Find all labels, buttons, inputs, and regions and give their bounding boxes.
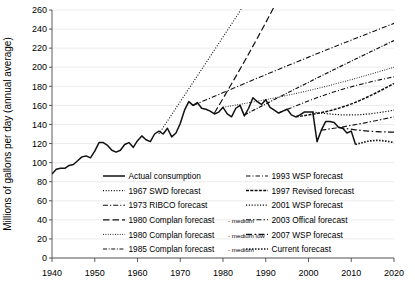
y-tick-label: 20 xyxy=(37,234,47,244)
legend-item[interactable]: 1993 WSP forecast xyxy=(246,171,344,181)
y-tick-label: 220 xyxy=(32,43,47,53)
series-group xyxy=(52,0,394,174)
y-axis-title: Millions of gallons per day (annual aver… xyxy=(2,37,13,230)
x-tick-label: 1990 xyxy=(256,268,276,278)
y-tick-label: 240 xyxy=(32,24,47,34)
y-tick-label: 100 xyxy=(32,158,47,168)
series-line-2001-wsp-forecast xyxy=(313,110,394,115)
x-tick-label: 2020 xyxy=(384,268,404,278)
legend-label: 1980 Complan forecast xyxy=(129,230,215,240)
legend-label: 2003 Offical forecast xyxy=(272,215,349,225)
x-tick-label: 1940 xyxy=(42,268,62,278)
legend-label: 1973 RIBCO forecast xyxy=(129,200,209,210)
y-tick-label: 140 xyxy=(32,120,47,130)
legend-label: 2001 WSP forecast xyxy=(272,200,344,210)
x-tick-label: 1980 xyxy=(213,268,233,278)
series-line-1973-ribco-forecast xyxy=(193,23,394,105)
legend-item[interactable]: 1973 RIBCO forecast xyxy=(103,200,208,210)
y-tick-label: 60 xyxy=(37,196,47,206)
series-line-1985-complan-forecast-medium xyxy=(244,41,394,115)
y-tick-label: 200 xyxy=(32,62,47,72)
legend-label: Actual consumption xyxy=(129,171,202,181)
legend-item[interactable]: 2001 WSP forecast xyxy=(246,200,344,210)
legend-label: 1985 Complan forecast xyxy=(129,244,215,254)
legend-label: 1967 SWD forecast xyxy=(129,186,202,196)
series-line-1993-wsp-forecast xyxy=(279,77,394,113)
legend-label: 1993 WSP forecast xyxy=(272,171,344,181)
x-tick-label: 1970 xyxy=(170,268,190,278)
x-tick-label: 1960 xyxy=(127,268,147,278)
legend-item[interactable]: 2003 Offical forecast xyxy=(246,215,348,225)
y-tick-label: 120 xyxy=(32,139,47,149)
x-tick-label: 1950 xyxy=(85,268,105,278)
legend-label: 1980 Complan forecast xyxy=(129,215,215,225)
legend-label: 2007 WSP forecast xyxy=(272,230,344,240)
x-tick-label: 2010 xyxy=(341,268,361,278)
series-line-2007-wsp-forecast xyxy=(338,127,394,132)
y-tick-label: 80 xyxy=(37,177,47,187)
legend-label-suffix: - medium low xyxy=(228,232,265,239)
legend-item[interactable]: 1997 Revised forecast xyxy=(246,186,355,196)
legend-item[interactable]: 1967 SWD forecast xyxy=(103,186,201,196)
legend-item[interactable]: Current forecast xyxy=(246,244,332,254)
y-tick-label: 0 xyxy=(42,253,47,263)
series-line-2003-offical-forecast xyxy=(321,117,394,130)
y-tick-label: 180 xyxy=(32,82,47,92)
legend-item[interactable]: 1985 Complan forecast- medium xyxy=(103,244,254,254)
water-consumption-forecast-chart: 0204060801001201401601802002202402601940… xyxy=(0,0,415,295)
legend-label: 1997 Revised forecast xyxy=(272,186,355,196)
y-tick-label: 40 xyxy=(37,215,47,225)
series-line-1980-complan-forecast-medium xyxy=(214,0,291,113)
legend-item[interactable]: 1980 Complan forecast- medium low xyxy=(103,230,265,240)
legend-item[interactable]: Actual consumption xyxy=(103,171,201,181)
legend: Actual consumption1967 SWD forecast1973 … xyxy=(103,171,355,254)
x-tick-label: 2000 xyxy=(298,268,318,278)
y-tick-label: 260 xyxy=(32,5,47,15)
y-axis: 020406080100120140160180200220240260 xyxy=(32,5,52,263)
x-axis: 194019501960197019801990200020102020 xyxy=(42,258,404,278)
legend-label-suffix: - medium xyxy=(228,217,254,224)
y-tick-label: 160 xyxy=(32,101,47,111)
legend-label: Current forecast xyxy=(272,244,332,254)
chart-container: 0204060801001201401601802002202402601940… xyxy=(0,0,415,295)
